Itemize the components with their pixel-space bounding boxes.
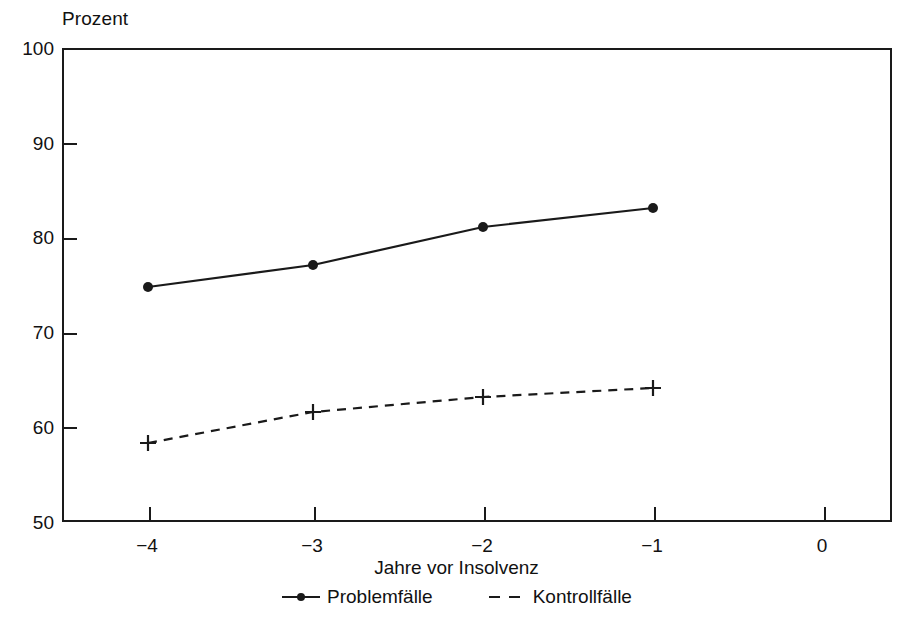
x-tick-mark--1 — [654, 507, 656, 520]
x-tick-mark--3 — [314, 507, 316, 520]
x-tick-label--4: −4 — [112, 536, 182, 555]
y-tick-mark-80 — [64, 238, 77, 240]
x-tick-mark--4 — [149, 507, 151, 520]
y-tick-mark-60 — [64, 427, 77, 429]
chart-figure: Prozent 100 90 80 70 60 50 — [0, 0, 913, 632]
y-tick-label-90: 90 — [6, 134, 54, 153]
plot-area — [62, 48, 892, 522]
legend-label-problemfaelle: Problemfälle — [327, 586, 433, 608]
y-tick-label-60: 60 — [6, 418, 54, 437]
y-tick-label-100: 100 — [6, 39, 54, 58]
x-tick-label--3: −3 — [277, 536, 347, 555]
y-tick-label-70: 70 — [6, 323, 54, 342]
y-tick-mark-90 — [64, 143, 77, 145]
legend-label-kontrollfaelle: Kontrollfälle — [533, 586, 632, 608]
x-axis-title: Jahre vor Insolvenz — [0, 557, 913, 579]
x-tick-mark--2 — [484, 507, 486, 520]
x-tick-mark-0 — [824, 507, 826, 520]
y-tick-label-80: 80 — [6, 228, 54, 247]
legend-line-dashed-icon — [487, 590, 527, 604]
legend-entry-kontrollfaelle: Kontrollfälle — [487, 586, 632, 608]
x-tick-label--1: −1 — [617, 536, 687, 555]
y-tick-mark-70 — [64, 333, 77, 335]
x-tick-label-0: 0 — [787, 536, 857, 555]
chart-legend: Problemfälle Kontrollfälle — [0, 586, 913, 608]
y-axis-title: Prozent — [62, 8, 128, 30]
legend-line-solid-dot-icon — [281, 590, 321, 604]
legend-entry-problemfaelle: Problemfälle — [281, 586, 433, 608]
x-axis-tick-labels: −4 −3 −2 −1 0 — [0, 522, 913, 562]
x-tick-label--2: −2 — [447, 536, 517, 555]
